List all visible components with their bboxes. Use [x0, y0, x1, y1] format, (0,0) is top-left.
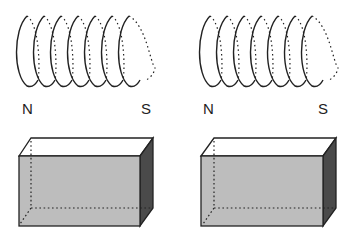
block-right-top-face: [201, 138, 336, 156]
coil-left: [17, 16, 156, 87]
block-left-front-face: [19, 156, 140, 226]
coil-right-north-label: N: [203, 101, 214, 116]
coil-right: [200, 16, 339, 87]
block-left: [19, 138, 153, 226]
coil-left-south-label: S: [141, 101, 151, 116]
block-right-front-face: [201, 156, 323, 226]
coil-right-loops: [200, 16, 324, 87]
block-right: [201, 138, 336, 226]
coil-left-loops: [17, 16, 141, 87]
coil-right-south-label: S: [318, 101, 328, 116]
coil-left-back-dotted: [27, 16, 155, 80]
coil-left-north-label: N: [22, 101, 33, 116]
block-left-top-face: [19, 138, 153, 156]
coil-right-back-dotted: [210, 16, 338, 80]
diagram-canvas: [0, 0, 351, 237]
